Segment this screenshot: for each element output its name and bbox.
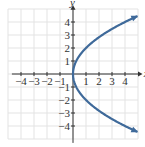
x-tick-label: −2 — [41, 75, 53, 87]
x-tick-label: 4 — [122, 75, 128, 87]
x-axis-arrow-icon — [138, 72, 143, 77]
x-tick-label: 2 — [96, 75, 102, 87]
graph: −4−3−2−112344321−1−2−3−4xy — [0, 0, 145, 147]
y-tick-label: 1 — [65, 55, 71, 67]
y-axis-label: y — [69, 0, 75, 8]
y-tick-label: 2 — [65, 42, 71, 54]
y-tick-label: −3 — [58, 107, 70, 119]
x-tick-label: −3 — [28, 75, 40, 87]
x-tick-label: 3 — [109, 75, 115, 87]
x-tick-label: −4 — [15, 75, 27, 87]
plot-area: −4−3−2−112344321−1−2−3−4xy — [0, 0, 145, 147]
x-axis-label: x — [143, 67, 145, 79]
y-tick-label: −1 — [58, 81, 70, 93]
y-tick-label: 3 — [65, 29, 71, 41]
y-tick-label: 4 — [65, 16, 71, 28]
y-tick-label: −2 — [58, 94, 70, 106]
x-tick-label: 1 — [83, 75, 89, 87]
y-tick-label: −4 — [58, 120, 70, 132]
